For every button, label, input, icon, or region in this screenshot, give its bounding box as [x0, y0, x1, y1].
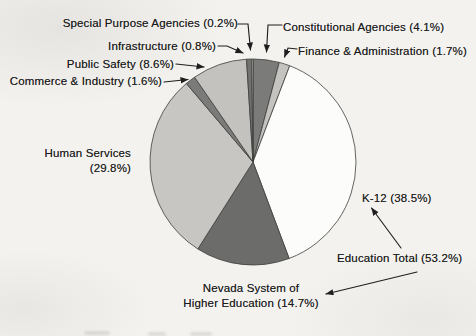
commerce-arrow [164, 80, 188, 83]
public-safety-arrow [176, 64, 204, 67]
label-finance-administration: Finance & Administration (1.7%) [298, 45, 467, 58]
pie-slices [150, 59, 356, 265]
label-education-total: Education Total (53.2%) [337, 252, 462, 265]
label-nshe-line1: Nevada System of [145, 281, 357, 296]
faint-cutoff-text-remnant [190, 332, 212, 336]
constitutional-arrow [267, 25, 283, 52]
special-purpose-arrow [238, 24, 251, 50]
label-nshe: Nevada System of Higher Education (14.7%… [145, 281, 357, 311]
label-public-safety: Public Safety (8.6%) [67, 58, 174, 71]
label-constitutional-agencies: Constitutional Agencies (4.1%) [283, 21, 444, 34]
label-commerce-industry: Commerce & Industry (1.6%) [10, 75, 162, 88]
pie-chart-figure: Special Purpose Agencies (0.2%) Constitu… [0, 0, 476, 336]
finance-arrow [285, 48, 298, 57]
label-k12: K-12 (38.5%) [362, 192, 432, 205]
label-special-purpose-agencies: Special Purpose Agencies (0.2%) [63, 17, 238, 30]
label-human-services-line1: Human Services [45, 146, 131, 161]
education-total-to-k12-arrow [372, 208, 402, 248]
label-human-services: Human Services (29.8%) [45, 146, 131, 176]
faint-cutoff-text-remnant [148, 332, 166, 336]
label-human-services-line2: (29.8%) [45, 161, 131, 176]
label-infrastructure: Infrastructure (0.8%) [108, 40, 216, 53]
label-nshe-line2: Higher Education (14.7%) [145, 296, 357, 311]
infrastructure-arrow [218, 46, 243, 53]
faint-cutoff-text-remnant [84, 331, 110, 335]
